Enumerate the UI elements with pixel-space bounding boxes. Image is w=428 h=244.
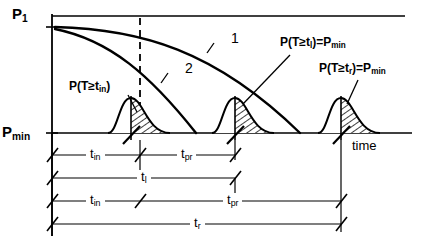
dim-label-row4-seg1: tr — [190, 216, 205, 231]
leader-line-curve-2 — [161, 73, 168, 83]
y-axis-bottom-label: Pmin — [2, 124, 30, 142]
dim-label-row1-seg1: tin — [86, 147, 105, 162]
bell-curve-3-group — [318, 96, 380, 144]
annotation-tin: P(T≥tin) — [69, 80, 110, 94]
diagram-svg — [0, 0, 428, 244]
x-axis-label: time — [352, 139, 377, 152]
bell-curve-1-group — [108, 96, 170, 144]
leader-line-curve-1 — [207, 43, 214, 53]
dim-label-row3-seg1: tin — [86, 193, 105, 208]
curve-1-label: 1 — [231, 31, 239, 45]
dim-label-row2-seg1: tl — [137, 170, 151, 185]
curve-2-label: 2 — [185, 61, 193, 75]
y-axis-top-label: P1 — [12, 6, 28, 24]
leader-line-tl — [243, 55, 290, 104]
diagram-canvas: P1 Pmin time 1 2 P(T≥tin) P(T≥tl)=Pmin P… — [0, 0, 428, 244]
leader-line-tr — [347, 80, 358, 104]
annotation-tl: P(T≥tl)=Pmin — [280, 36, 346, 50]
dim-row-1-lines — [47, 148, 241, 162]
annotation-tr: P(T≥tr)=Pmin — [319, 62, 386, 76]
dim-label-row1-seg2: tpr — [177, 147, 196, 162]
dim-label-row3-seg2: tpr — [223, 193, 242, 208]
